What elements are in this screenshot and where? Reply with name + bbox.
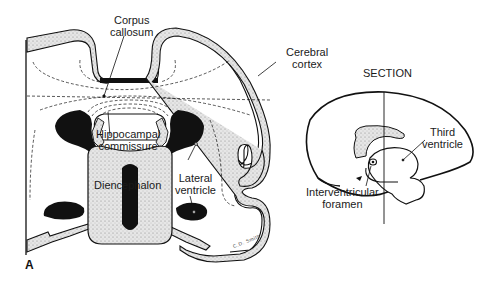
label-corpus-callosum-line1: Corpus xyxy=(110,14,153,26)
label-diencephalon: Diencephalon xyxy=(94,179,161,191)
label-hippocampal-commissure: Hippocampal commissure xyxy=(96,128,160,152)
lateral-ventricle-upper-left xyxy=(55,110,96,154)
third-ventricle-slit xyxy=(122,164,138,230)
lateral-ventricle-lower-left xyxy=(44,202,85,220)
cortex-top-left xyxy=(27,30,108,83)
label-interventricular-foramen: Interventricular foramen xyxy=(306,186,379,210)
label-interventricular-foramen-line2: foramen xyxy=(306,198,379,210)
cortex-bottom-left xyxy=(27,222,97,252)
label-interventricular-foramen-line1: Interventricular xyxy=(306,186,379,198)
panel-letter: A xyxy=(25,258,34,272)
label-hippocampal-commissure-line2: commissure xyxy=(96,140,160,152)
label-section: SECTION xyxy=(363,67,412,79)
label-cerebral-cortex-line2: cortex xyxy=(286,58,328,70)
label-hippocampal-commissure-line1: Hippocampal xyxy=(96,128,160,140)
olfactory-notch xyxy=(356,176,362,181)
label-cerebral-cortex-line1: Cerebral xyxy=(286,46,328,58)
label-third-ventricle-line2: ventricle xyxy=(422,138,463,150)
label-cerebral-cortex: Cerebral cortex xyxy=(286,46,328,70)
label-lateral-ventricle-line1: Lateral xyxy=(175,172,216,184)
lateral-ventricle-lower-right xyxy=(176,203,207,221)
label-third-ventricle: Third ventricle xyxy=(422,126,463,150)
label-corpus-callosum: Corpus callosum xyxy=(110,14,153,38)
brain-development-diagram xyxy=(0,0,492,288)
label-lateral-ventricle-line2: ventricle xyxy=(175,184,216,196)
label-lateral-ventricle: Lateral ventricle xyxy=(175,172,216,196)
label-third-ventricle-line1: Third xyxy=(422,126,463,138)
label-corpus-callosum-line2: callosum xyxy=(110,26,153,38)
